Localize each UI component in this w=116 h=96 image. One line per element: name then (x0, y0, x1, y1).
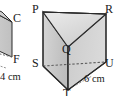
vertex-label-u: U (105, 56, 114, 70)
diagram-canvas: C F 4 cm (0, 0, 116, 96)
vertex-label-t: T (63, 86, 71, 96)
dimension-label-4cm: 4 cm (0, 71, 21, 82)
vertex-label-r: R (105, 2, 113, 16)
vertex-label-f: F (13, 52, 20, 66)
left-partial-figure: C F 4 cm (0, 0, 116, 96)
dimension-label-6cm: 6 cm (84, 73, 105, 84)
vertex-label-q: Q (62, 42, 71, 56)
left-figure-faces (0, 2, 12, 57)
left-figure-dimension-line (0, 64, 6, 68)
vertex-label-c: C (13, 11, 21, 25)
vertex-label-s: S (32, 56, 39, 70)
vertex-label-p: P (32, 2, 39, 16)
